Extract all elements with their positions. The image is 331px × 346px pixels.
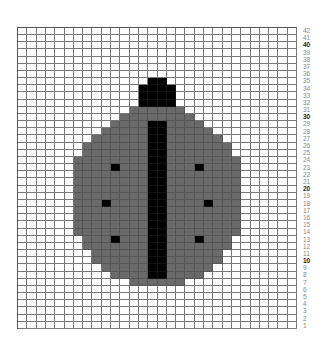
grey-stitch-cell — [167, 250, 176, 257]
empty-cell — [102, 100, 111, 107]
empty-cell — [18, 35, 27, 42]
empty-cell — [139, 300, 148, 307]
grey-stitch-cell — [130, 178, 139, 185]
empty-cell — [269, 307, 278, 314]
grey-stitch-cell — [176, 257, 185, 264]
grey-stitch-cell — [167, 279, 176, 286]
empty-cell — [74, 78, 83, 85]
empty-cell — [120, 100, 129, 107]
empty-cell — [260, 71, 269, 78]
empty-cell — [260, 243, 269, 250]
grey-stitch-cell — [74, 171, 83, 178]
empty-cell — [27, 272, 36, 279]
empty-cell — [288, 164, 297, 171]
empty-cell — [65, 71, 74, 78]
empty-cell — [251, 128, 260, 135]
empty-cell — [27, 186, 36, 193]
empty-cell — [278, 250, 287, 257]
empty-cell — [288, 157, 297, 164]
empty-cell — [83, 272, 92, 279]
empty-cell — [241, 250, 250, 257]
empty-cell — [74, 85, 83, 92]
empty-cell — [278, 57, 287, 64]
empty-cell — [241, 272, 250, 279]
empty-cell — [46, 143, 55, 150]
empty-cell — [176, 35, 185, 42]
empty-cell — [18, 250, 27, 257]
empty-cell — [37, 143, 46, 150]
empty-cell — [83, 286, 92, 293]
empty-cell — [185, 92, 194, 99]
empty-cell — [241, 236, 250, 243]
grey-stitch-cell — [176, 164, 185, 171]
empty-cell — [269, 300, 278, 307]
empty-cell — [176, 42, 185, 49]
empty-cell — [167, 300, 176, 307]
empty-cell — [158, 322, 167, 329]
grey-stitch-cell — [102, 143, 111, 150]
grey-stitch-cell — [167, 193, 176, 200]
empty-cell — [120, 71, 129, 78]
empty-cell — [92, 128, 101, 135]
grey-stitch-cell — [130, 135, 139, 142]
empty-cell — [18, 322, 27, 329]
grey-stitch-cell — [167, 135, 176, 142]
empty-cell — [278, 49, 287, 56]
grey-stitch-cell — [167, 229, 176, 236]
empty-cell — [278, 42, 287, 49]
empty-cell — [139, 315, 148, 322]
grey-stitch-cell — [185, 121, 194, 128]
empty-cell — [223, 300, 232, 307]
empty-cell — [102, 28, 111, 35]
empty-cell — [251, 71, 260, 78]
empty-cell — [278, 236, 287, 243]
empty-cell — [120, 35, 129, 42]
empty-cell — [288, 49, 297, 56]
empty-cell — [269, 214, 278, 221]
empty-cell — [269, 272, 278, 279]
empty-cell — [37, 236, 46, 243]
grey-stitch-cell — [120, 150, 129, 157]
grey-stitch-cell — [139, 164, 148, 171]
row-label: 19 — [300, 192, 328, 199]
grey-stitch-cell — [204, 214, 213, 221]
grey-stitch-cell — [213, 236, 222, 243]
grey-stitch-cell — [204, 157, 213, 164]
empty-cell — [55, 121, 64, 128]
empty-cell — [204, 272, 213, 279]
grey-stitch-cell — [120, 121, 129, 128]
empty-cell — [148, 35, 157, 42]
empty-cell — [139, 307, 148, 314]
black-stitch-cell — [148, 143, 157, 150]
empty-cell — [278, 100, 287, 107]
empty-cell — [74, 236, 83, 243]
empty-cell — [18, 193, 27, 200]
grey-stitch-cell — [223, 171, 232, 178]
empty-cell — [269, 243, 278, 250]
empty-cell — [37, 71, 46, 78]
grey-stitch-cell — [185, 236, 194, 243]
empty-cell — [55, 229, 64, 236]
grey-stitch-cell — [120, 186, 129, 193]
grey-stitch-cell — [176, 114, 185, 121]
empty-cell — [27, 300, 36, 307]
grey-stitch-cell — [102, 164, 111, 171]
empty-cell — [27, 221, 36, 228]
grey-stitch-cell — [204, 164, 213, 171]
grey-stitch-cell — [102, 193, 111, 200]
grey-stitch-cell — [167, 114, 176, 121]
grey-stitch-cell — [176, 236, 185, 243]
empty-cell — [27, 243, 36, 250]
empty-cell — [27, 135, 36, 142]
empty-cell — [139, 28, 148, 35]
empty-cell — [260, 264, 269, 271]
empty-cell — [260, 64, 269, 71]
empty-cell — [204, 35, 213, 42]
empty-cell — [18, 264, 27, 271]
empty-cell — [260, 193, 269, 200]
empty-cell — [92, 100, 101, 107]
empty-cell — [213, 100, 222, 107]
empty-cell — [158, 286, 167, 293]
empty-cell — [260, 135, 269, 142]
empty-cell — [260, 286, 269, 293]
